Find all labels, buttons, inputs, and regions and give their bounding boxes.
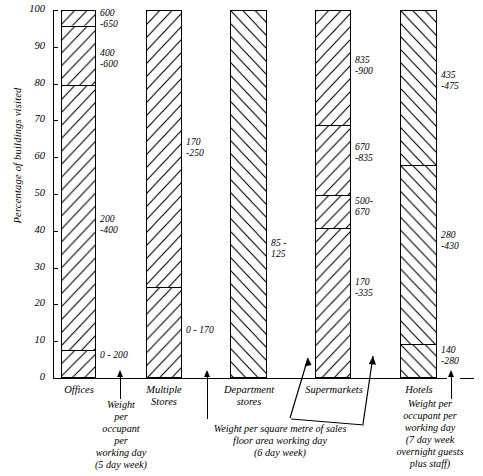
y-tick-mark xyxy=(53,84,58,85)
y-tick-label: 60 xyxy=(15,152,45,160)
y-tick-label: 30 xyxy=(15,263,45,271)
y-tick-label: 20 xyxy=(15,299,45,307)
value-label-hotels-435-475: 435 -475 xyxy=(441,70,459,91)
bar-segment[interactable] xyxy=(316,11,350,125)
value-label-offices-600-650: 600 -650 xyxy=(100,8,118,29)
bar-segment[interactable] xyxy=(62,85,95,350)
bar-segment[interactable] xyxy=(316,195,350,228)
y-tick-mark xyxy=(53,157,58,158)
y-tick-label: 90 xyxy=(15,42,45,50)
y-tick-90: 90 xyxy=(18,42,53,53)
y-tick-label: 70 xyxy=(15,115,45,123)
annotation-retail: Weight per square metre of sales floor a… xyxy=(180,423,380,459)
chart-canvas: Percentage of buildings visited 100 90 8… xyxy=(0,0,483,476)
annotation-arrow-retail-shaft xyxy=(207,377,208,419)
value-label-multiple-0-170: 0 - 170 xyxy=(186,325,214,336)
y-tick-label: 40 xyxy=(15,226,45,234)
y-tick-70: 70 xyxy=(18,115,53,126)
annotation-hotels: Weight per occupant per working day (7 d… xyxy=(377,398,483,470)
bar-segment[interactable] xyxy=(62,26,95,85)
y-tick-mark xyxy=(53,341,58,342)
y-tick-20: 20 xyxy=(18,299,53,310)
bar-segment[interactable] xyxy=(401,11,436,165)
y-tick-label: 100 xyxy=(15,5,45,13)
value-label-supermarkets-500-670: 500- 670 xyxy=(355,196,373,217)
value-label-department-85-125: 85 - 125 xyxy=(271,238,287,259)
annotation-offices: Weight per occupant per working day (5 d… xyxy=(74,399,168,471)
annotation-arrow-offices-head xyxy=(117,370,123,377)
bar-segment[interactable] xyxy=(62,350,95,379)
y-tick-80: 80 xyxy=(18,79,53,90)
y-tick-mark xyxy=(53,47,58,48)
bar-multiple-stores[interactable] xyxy=(146,10,182,378)
annotation-arrow-hotels-head xyxy=(448,370,454,377)
y-tick-0: 0 xyxy=(18,373,53,384)
y-tick-mark xyxy=(53,10,58,11)
value-label-supermarkets-835-900: 835 -900 xyxy=(355,55,373,76)
value-label-supermarkets-670-835: 670 -835 xyxy=(355,142,373,163)
bar-segment[interactable] xyxy=(147,11,181,287)
y-tick-mark xyxy=(53,120,58,121)
value-label-offices-0-200: 0 - 200 xyxy=(100,350,128,361)
bar-segment[interactable] xyxy=(62,11,95,26)
y-tick-label: 80 xyxy=(15,79,45,87)
y-tick-mark xyxy=(53,304,58,305)
y-tick-mark xyxy=(53,268,58,269)
y-tick-mark xyxy=(53,194,58,195)
y-tick-label: 0 xyxy=(15,373,45,381)
value-label-offices-200-400: 200 -400 xyxy=(100,214,118,235)
y-tick-100: 100 xyxy=(18,5,53,16)
annotation-arrow-hotels-shaft xyxy=(451,377,452,399)
y-tick-mark xyxy=(53,231,58,232)
bar-segment[interactable] xyxy=(147,287,181,379)
y-tick-30: 30 xyxy=(18,263,53,274)
y-tick-10: 10 xyxy=(18,336,53,347)
category-label-offices: Offices xyxy=(44,384,114,396)
annotation-arrow-retail-head xyxy=(204,370,210,377)
value-label-multiple-170-250: 170 -250 xyxy=(186,137,204,158)
value-label-offices-400-600: 400 -600 xyxy=(100,48,118,69)
y-tick-label: 10 xyxy=(15,336,45,344)
y-tick-60: 60 xyxy=(18,152,53,163)
bar-offices[interactable] xyxy=(61,10,96,378)
y-tick-50: 50 xyxy=(18,189,53,200)
value-label-hotels-280-430: 280 -430 xyxy=(441,230,459,251)
y-tick-label: 50 xyxy=(15,189,45,197)
value-label-supermarkets-170-335: 170 -335 xyxy=(355,277,373,298)
x-axis-line xyxy=(460,378,474,379)
annotation-arrow-offices-shaft xyxy=(120,377,121,399)
bar-segment[interactable] xyxy=(316,125,350,195)
y-tick-40: 40 xyxy=(18,226,53,237)
